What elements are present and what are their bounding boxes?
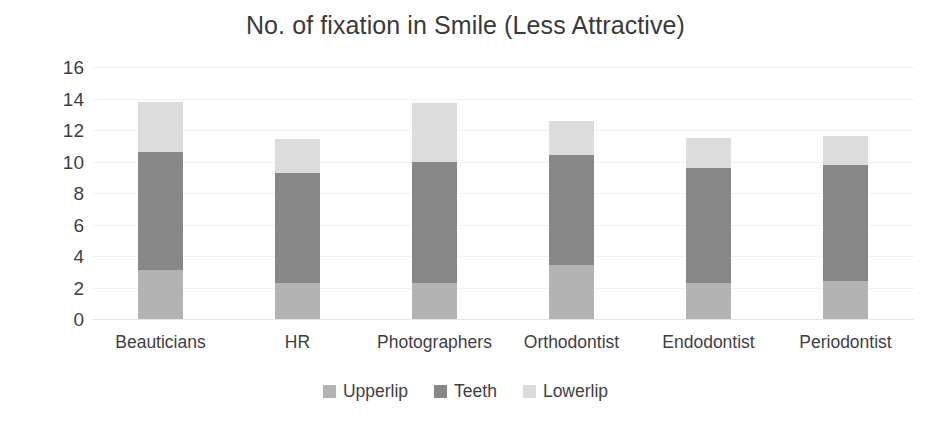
x-axis-tick-photographers: Photographers — [366, 330, 503, 354]
gridline-4 — [92, 256, 914, 257]
bar-segment-upperlip[interactable] — [138, 270, 183, 319]
x-axis-tick-hr: HR — [229, 330, 366, 354]
x-axis-tick-orthodontist: Orthodontist — [503, 330, 640, 354]
bar-stack — [412, 103, 457, 319]
bar-segment-upperlip[interactable] — [686, 283, 731, 319]
gridline-12 — [92, 130, 914, 131]
legend-item-teeth[interactable]: Teeth — [434, 381, 497, 401]
x-axis-tick-beauticians: Beauticians — [92, 330, 229, 354]
legend-item-lowerlip[interactable]: Lowerlip — [523, 381, 608, 401]
bar-segment-lowerlip[interactable] — [549, 121, 594, 156]
gridline-10 — [92, 162, 914, 163]
bar-segment-teeth[interactable] — [138, 152, 183, 270]
legend-swatch-icon — [323, 385, 336, 398]
legend-swatch-icon — [523, 385, 536, 398]
y-axis-tick-8: 8 — [30, 184, 84, 203]
chart-legend: UpperlipTeethLowerlip — [0, 381, 931, 401]
legend-label: Teeth — [454, 381, 497, 401]
bar-segment-teeth[interactable] — [412, 162, 457, 283]
x-axis-tick-periodontist: Periodontist — [777, 330, 914, 354]
bar-segment-teeth[interactable] — [275, 173, 320, 283]
gridline-8 — [92, 193, 914, 194]
legend-label: Upperlip — [343, 381, 408, 401]
x-axis: BeauticiansHRPhotographersOrthodontistEn… — [92, 330, 914, 356]
legend-item-upperlip[interactable]: Upperlip — [323, 381, 408, 401]
y-axis-tick-10: 10 — [30, 153, 84, 172]
y-axis-tick-2: 2 — [30, 279, 84, 298]
bar-stack — [686, 138, 731, 319]
legend-label: Lowerlip — [543, 381, 608, 401]
bar-stack — [275, 139, 320, 319]
axis-baseline — [92, 319, 914, 320]
bar-stack — [549, 121, 594, 319]
gridline-14 — [92, 99, 914, 100]
bar-segment-lowerlip[interactable] — [686, 138, 731, 168]
bar-segment-upperlip[interactable] — [275, 283, 320, 319]
bar-segment-lowerlip[interactable] — [138, 102, 183, 152]
bar-segment-teeth[interactable] — [686, 168, 731, 283]
x-axis-tick-endodontist: Endodontist — [640, 330, 777, 354]
y-axis-tick-16: 16 — [30, 58, 84, 77]
bar-segment-lowerlip[interactable] — [412, 103, 457, 161]
y-axis-tick-14: 14 — [30, 90, 84, 109]
y-axis-tick-4: 4 — [30, 247, 84, 266]
y-axis-tick-12: 12 — [30, 121, 84, 140]
bar-segment-lowerlip[interactable] — [823, 136, 868, 164]
gridline-16 — [92, 67, 914, 68]
stacked-bar-chart: No. of fixation in Smile (Less Attractiv… — [0, 0, 931, 429]
bar-stack — [138, 102, 183, 319]
bar-segment-upperlip[interactable] — [549, 265, 594, 319]
bar-segment-teeth[interactable] — [549, 155, 594, 265]
chart-title: No. of fixation in Smile (Less Attractiv… — [0, 8, 931, 42]
bar-segment-lowerlip[interactable] — [275, 139, 320, 172]
y-axis-tick-6: 6 — [30, 216, 84, 235]
y-axis: 1614121086420 — [30, 0, 84, 429]
gridline-6 — [92, 225, 914, 226]
legend-swatch-icon — [434, 385, 447, 398]
bar-segment-upperlip[interactable] — [823, 281, 868, 319]
bar-segment-upperlip[interactable] — [412, 283, 457, 319]
gridline-2 — [92, 288, 914, 289]
bar-stack — [823, 136, 868, 319]
bar-segment-teeth[interactable] — [823, 165, 868, 282]
plot-area — [92, 67, 914, 319]
y-axis-tick-0: 0 — [30, 310, 84, 329]
